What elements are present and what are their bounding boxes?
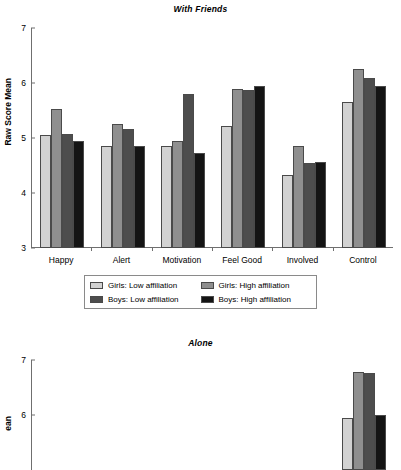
bar-control-series-3 — [375, 86, 386, 248]
bar-feel-good-series-2 — [243, 90, 254, 248]
x-tick-label-alert: Alert — [113, 255, 130, 265]
bar-alone-control-series-0 — [342, 418, 353, 470]
x-tick-mark-3 — [212, 247, 213, 251]
bar-involved-series-3 — [315, 162, 326, 248]
y-tick-label-alone-6: 6 — [4, 410, 31, 420]
legend-label-boys-high: Boys: High affiliation — [219, 295, 291, 304]
legend-label-girls-high: Girls: High affiliation — [219, 281, 290, 290]
legend-swatch-boys-low — [90, 296, 103, 303]
x-tick-mark-5 — [333, 247, 334, 251]
chart-panel-with-friends: With Friends Raw Score Mean 76543HappyAl… — [0, 0, 401, 268]
bar-control-series-1 — [353, 69, 364, 248]
chart-legend: Girls: Low affiliation Girls: High affil… — [84, 275, 317, 309]
x-tick-mark-4 — [272, 247, 273, 251]
legend-item-girls-low: Girls: Low affiliation — [90, 281, 201, 290]
legend-label-boys-low: Boys: Low affiliation — [108, 295, 179, 304]
legend-swatch-girls-low — [90, 282, 103, 289]
bar-involved-series-2 — [304, 163, 315, 248]
y-tick-mark-3 — [31, 248, 35, 249]
bar-feel-good-series-0 — [221, 126, 232, 248]
x-tick-mark-1 — [91, 247, 92, 251]
bar-happy-series-0 — [40, 135, 51, 248]
y-tick-mark-7 — [31, 28, 35, 29]
bar-motivation-series-3 — [194, 153, 205, 248]
plot-area-with-friends: 76543HappyAlertMotivationFeel GoodInvolv… — [31, 28, 393, 248]
bar-motivation-series-2 — [183, 94, 194, 248]
bar-feel-good-series-1 — [232, 89, 243, 248]
y-tick-mark-alone-6 — [31, 415, 35, 416]
bar-involved-series-1 — [293, 146, 304, 248]
y-tick-mark-alone-7 — [31, 360, 35, 361]
y-tick-label-alone-7: 7 — [4, 355, 31, 365]
y-tick-label-6: 6 — [4, 78, 31, 88]
chart-title-alone: Alone — [0, 338, 401, 348]
bar-motivation-series-1 — [172, 141, 183, 248]
bar-alert-series-2 — [123, 129, 134, 248]
bar-happy-series-2 — [62, 134, 73, 248]
bar-control-series-0 — [342, 102, 353, 248]
bar-happy-series-3 — [73, 141, 84, 248]
y-tick-mark-5 — [31, 138, 35, 139]
plot-area-alone: 76 — [31, 360, 393, 470]
x-tick-label-happy: Happy — [49, 255, 74, 265]
y-tick-mark-6 — [31, 83, 35, 84]
legend-swatch-girls-high — [201, 282, 214, 289]
bar-feel-good-series-3 — [254, 86, 265, 248]
bar-alone-control-series-3 — [375, 415, 386, 470]
bar-alert-series-1 — [112, 124, 123, 248]
y-tick-mark-4 — [31, 193, 35, 194]
y-tick-label-7: 7 — [4, 23, 31, 33]
legend-item-boys-low: Boys: Low affiliation — [90, 295, 201, 304]
chart-title-with-friends: With Friends — [0, 4, 401, 14]
y-tick-label-5: 5 — [4, 133, 31, 143]
y-tick-label-3: 3 — [4, 243, 31, 253]
bar-motivation-series-0 — [161, 146, 172, 248]
bar-alert-series-0 — [101, 146, 112, 248]
x-tick-mark-2 — [152, 247, 153, 251]
x-tick-label-feel-good: Feel Good — [222, 255, 262, 265]
y-tick-label-4: 4 — [4, 188, 31, 198]
x-tick-label-control: Control — [349, 255, 376, 265]
bar-involved-series-0 — [282, 175, 293, 248]
legend-swatch-boys-high — [201, 296, 214, 303]
legend-label-girls-low: Girls: Low affiliation — [108, 281, 177, 290]
bar-alone-control-series-1 — [353, 372, 364, 470]
bar-happy-series-1 — [51, 109, 62, 248]
legend-item-boys-high: Boys: High affiliation — [201, 295, 312, 304]
bar-alert-series-3 — [134, 146, 145, 248]
bar-alone-control-series-2 — [364, 373, 375, 470]
x-tick-label-involved: Involved — [287, 255, 319, 265]
legend-item-girls-high: Girls: High affiliation — [201, 281, 312, 290]
bar-control-series-2 — [364, 78, 375, 249]
x-tick-label-motivation: Motivation — [162, 255, 201, 265]
